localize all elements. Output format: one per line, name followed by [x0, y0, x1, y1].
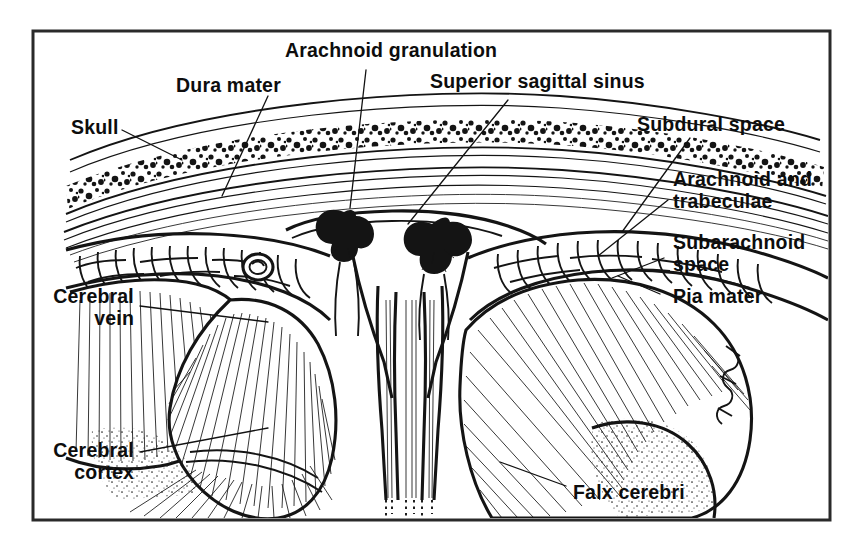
- label-cerebral-vein-line2: vein: [94, 307, 134, 329]
- anatomy-figure: Arachnoid granulation Superior sagittal …: [0, 0, 853, 548]
- label-arachnoid-granulation: Arachnoid granulation: [285, 39, 497, 61]
- label-skull: Skull: [71, 116, 119, 138]
- label-arachnoid-trabeculae-line1: Arachnoid and: [673, 168, 812, 190]
- label-arachnoid-trabeculae-line2: trabeculae: [673, 190, 773, 212]
- label-superior-sagittal-sinus: Superior sagittal sinus: [430, 70, 645, 92]
- label-subarachnoid-space-line2: space: [673, 253, 729, 275]
- label-cerebral-vein-line1: Cerebral: [53, 285, 134, 307]
- label-subarachnoid-space-line1: Subarachnoid: [673, 231, 805, 253]
- label-pia-mater: Pia mater: [673, 285, 763, 307]
- label-cerebral-cortex-line1: Cerebral: [53, 439, 134, 461]
- label-falx-cerebri: Falx cerebri: [573, 481, 685, 503]
- label-dura-mater: Dura mater: [176, 74, 281, 96]
- cerebral-vein: [243, 254, 273, 280]
- label-subdural-space: Subdural space: [637, 113, 785, 135]
- label-cerebral-cortex-line2: cortex: [74, 461, 134, 483]
